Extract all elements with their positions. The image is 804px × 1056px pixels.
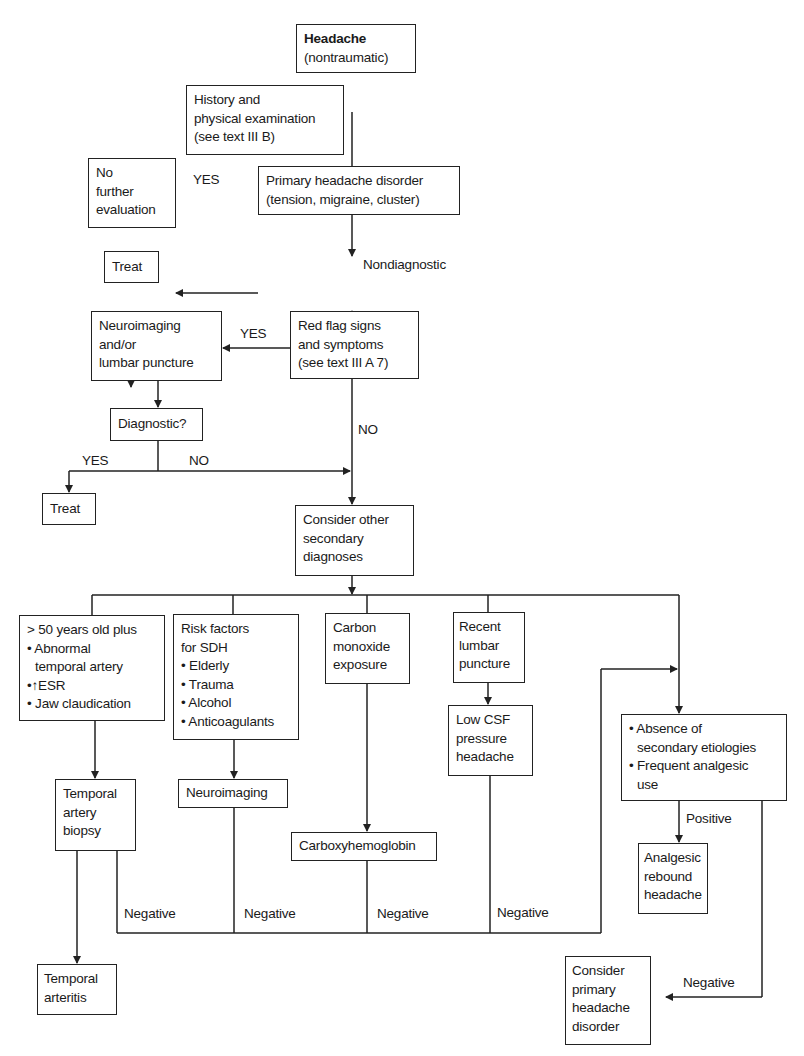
headache-start-box: Headache (nontraumatic) — [296, 24, 416, 73]
branch-rebound-box: • Absence of secondary etiologies • Freq… — [621, 714, 787, 801]
edge-label-positive: Positive — [686, 811, 732, 826]
branch-giant-cell-box: > 50 years old plus • Abnormal temporal … — [19, 615, 165, 721]
low-csf-line-2: pressure — [456, 730, 526, 749]
red-flag-line-2: and symptoms — [298, 336, 412, 355]
red-flag-line-1: Red flag signs — [298, 317, 412, 336]
sdh-line-1: Risk factors — [181, 620, 292, 639]
giant-cell-line-2: • Abnormal — [27, 640, 158, 659]
temporal-artery-biopsy-box: Temporal artery biopsy — [55, 779, 136, 851]
consider-primary-box: Consider primary headache disorder — [565, 956, 651, 1045]
start-subtitle: (nontraumatic) — [304, 49, 409, 68]
edge-label-nondiagnostic: Nondiagnostic — [363, 257, 446, 272]
temporal-arteritis-line-2: arteritis — [44, 989, 110, 1008]
history-exam-box: History and physical examination (see te… — [186, 85, 344, 155]
consider-primary-line-3: headache — [572, 999, 644, 1018]
primary-line-1: Primary headache disorder — [266, 172, 453, 191]
no-further-evaluation-box: No further evaluation — [88, 158, 176, 228]
treat-2-label: Treat — [50, 500, 89, 519]
neuroimaging-box: Neuroimaging — [178, 779, 288, 808]
analgesic-line-3: headache — [644, 886, 701, 905]
edge-label-no-diagnostic: NO — [189, 453, 209, 468]
diagnostic-label: Diagnostic? — [118, 415, 196, 434]
neuroimaging-label: Neuroimaging — [186, 784, 281, 803]
edge-label-negative-4: Negative — [497, 905, 549, 920]
rebound-line-2: secondary etiologies — [629, 739, 780, 758]
treat-box-2: Treat — [42, 493, 96, 525]
co-line-2: monoxide — [333, 638, 403, 657]
consider-primary-line-4: disorder — [572, 1018, 644, 1037]
edge-label-negative-right: Negative — [683, 975, 735, 990]
lp-line-3: puncture — [459, 655, 518, 674]
ta-biopsy-line-3: biopsy — [63, 822, 129, 841]
rebound-line-4: use — [629, 776, 780, 795]
rebound-line-1: • Absence of — [629, 720, 780, 739]
consider-secondary-line-1: Consider other — [303, 511, 407, 530]
carboxyhemoglobin-label: Carboxyhemoglobin — [299, 837, 430, 856]
neuro-lp-line-3: lumbar puncture — [99, 354, 215, 373]
no-further-line-1: No — [96, 164, 169, 183]
low-csf-line-3: headache — [456, 748, 526, 767]
history-line-3: (see text III B) — [194, 128, 337, 147]
edge-label-yes-red-flag: YES — [240, 326, 266, 341]
headache-flowchart: Headache (nontraumatic) History and phys… — [0, 0, 804, 1056]
no-further-line-3: evaluation — [96, 201, 169, 220]
sdh-line-4: • Trauma — [181, 676, 292, 695]
treat-box-1: Treat — [104, 251, 159, 283]
primary-headache-box: Primary headache disorder (tension, migr… — [258, 166, 460, 215]
carboxyhemoglobin-box: Carboxyhemoglobin — [291, 832, 437, 861]
neuro-lp-line-1: Neuroimaging — [99, 317, 215, 336]
co-line-1: Carbon — [333, 619, 403, 638]
edge-label-negative-1: Negative — [124, 906, 176, 921]
consider-primary-line-2: primary — [572, 981, 644, 1000]
giant-cell-line-4: •↑ESR — [27, 677, 158, 696]
giant-cell-line-1: > 50 years old plus — [27, 621, 158, 640]
neuro-lp-line-2: and/or — [99, 336, 215, 355]
consider-secondary-line-2: secondary — [303, 530, 407, 549]
rebound-line-3: • Frequent analgesic — [629, 757, 780, 776]
analgesic-line-2: rebound — [644, 868, 701, 887]
red-flag-box: Red flag signs and symptoms (see text II… — [290, 311, 419, 379]
sdh-line-2: for SDH — [181, 639, 292, 658]
treat-1-label: Treat — [112, 258, 152, 277]
temporal-arteritis-box: Temporal arteritis — [37, 964, 117, 1015]
branch-lp-box: Recent lumbar puncture — [453, 612, 525, 683]
consider-primary-line-1: Consider — [572, 962, 644, 981]
ta-biopsy-line-1: Temporal — [63, 785, 129, 804]
low-csf-box: Low CSF pressure headache — [448, 705, 533, 776]
branch-co-box: Carbon monoxide exposure — [325, 613, 410, 684]
analgesic-line-1: Analgesic — [644, 849, 701, 868]
edge-label-no-red-flag: NO — [358, 422, 378, 437]
neuroimaging-lp-box: Neuroimaging and/or lumbar puncture — [91, 311, 222, 381]
low-csf-line-1: Low CSF — [456, 711, 526, 730]
lp-line-1: Recent — [459, 618, 518, 637]
red-flag-line-3: (see text III A 7) — [298, 354, 412, 373]
edge-label-yes-diagnostic: YES — [82, 453, 108, 468]
consider-secondary-line-3: diagnoses — [303, 548, 407, 567]
co-line-3: exposure — [333, 656, 403, 675]
primary-line-2: (tension, migraine, cluster) — [266, 191, 453, 210]
sdh-line-5: • Alcohol — [181, 694, 292, 713]
ta-biopsy-line-2: artery — [63, 804, 129, 823]
edge-label-negative-2: Negative — [244, 906, 296, 921]
sdh-line-6: • Anticoagulants — [181, 713, 292, 732]
start-title: Headache — [304, 30, 409, 49]
diagnostic-question-box: Diagnostic? — [110, 408, 203, 441]
consider-secondary-box: Consider other secondary diagnoses — [295, 505, 414, 576]
history-line-2: physical examination — [194, 110, 337, 129]
temporal-arteritis-line-1: Temporal — [44, 970, 110, 989]
lp-line-2: lumbar — [459, 637, 518, 656]
giant-cell-line-3: temporal artery — [27, 658, 158, 677]
edge-label-negative-3: Negative — [377, 906, 429, 921]
analgesic-rebound-box: Analgesic rebound headache — [638, 843, 708, 914]
history-line-1: History and — [194, 91, 337, 110]
branch-sdh-box: Risk factors for SDH • Elderly • Trauma … — [173, 614, 299, 740]
no-further-line-2: further — [96, 183, 169, 202]
sdh-line-3: • Elderly — [181, 657, 292, 676]
giant-cell-line-5: • Jaw claudication — [27, 695, 158, 714]
edge-label-yes-primary: YES — [193, 172, 219, 187]
